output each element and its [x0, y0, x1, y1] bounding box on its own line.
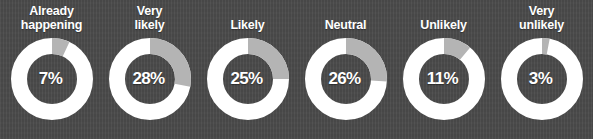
donut-svg: [7, 34, 97, 124]
donut-gauge-unlikely: [399, 34, 489, 124]
donut-gauge-likely: [203, 34, 293, 124]
donut-gauge-very-unlikely: [497, 34, 587, 124]
label-line: likely: [134, 19, 164, 33]
donut-label-unlikely: Unlikely: [396, 0, 491, 34]
donut-svg: [105, 34, 195, 124]
donut-track: [411, 46, 477, 112]
donut-wrap-very-likely: 28%: [104, 34, 196, 134]
donut-item-already-happening: Already happening 7%: [4, 0, 99, 134]
donut-label-neutral: Neutral: [298, 0, 393, 34]
label-line: Neutral: [325, 19, 367, 33]
donut-item-likely: Likely 25%: [200, 0, 295, 134]
label-line: Unlikely: [420, 19, 466, 33]
donut-svg: [203, 34, 293, 124]
label-line: happening: [21, 19, 82, 33]
label-line: Likely: [230, 19, 264, 33]
label-line: Already: [29, 5, 73, 19]
donut-label-very-likely: Very likely: [102, 0, 197, 34]
donut-wrap-neutral: 26%: [300, 34, 392, 134]
donut-gauge-very-likely: [105, 34, 195, 124]
donut-svg: [399, 34, 489, 124]
label-line: unlikely: [519, 19, 564, 33]
donut-wrap-already-happening: 7%: [6, 34, 98, 134]
donut-gauge-already-happening: [7, 34, 97, 124]
donut-track: [19, 46, 85, 112]
donut-track: [509, 46, 575, 112]
label-line: Very: [529, 5, 555, 19]
donut-svg: [301, 34, 391, 124]
donut-svg: [497, 34, 587, 124]
donut-item-neutral: Neutral 26%: [298, 0, 393, 134]
donut-item-very-likely: Very likely 28%: [102, 0, 197, 134]
donut-label-already-happening: Already happening: [4, 0, 99, 34]
label-line: Very: [137, 5, 163, 19]
donut-wrap-very-unlikely: 3%: [496, 34, 588, 134]
donut-chart-row: Already happening 7% Very likely: [0, 0, 593, 139]
donut-label-very-unlikely: Very unlikely: [494, 0, 589, 34]
donut-gauge-neutral: [301, 34, 391, 124]
donut-label-likely: Likely: [200, 0, 295, 34]
donut-item-very-unlikely: Very unlikely 3%: [494, 0, 589, 134]
donut-item-unlikely: Unlikely 11%: [396, 0, 491, 134]
donut-wrap-likely: 25%: [202, 34, 294, 134]
donut-wrap-unlikely: 11%: [398, 34, 490, 134]
